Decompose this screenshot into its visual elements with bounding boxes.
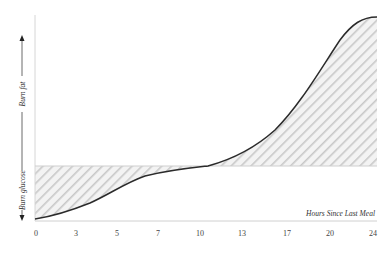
label-burn-glucose: Burn glucose (18, 169, 27, 209)
x-tick-labels: 0 3 5 7 10 13 17 20 24 (34, 229, 377, 238)
x-tick: 0 (34, 229, 38, 238)
fasting-fuel-chart: Burn fat Burn glucose Hours Since Last M… (0, 0, 391, 259)
x-tick: 20 (326, 229, 334, 238)
fat-region (208, 17, 377, 166)
down-arrow-icon (20, 215, 25, 221)
up-arrow-icon (20, 35, 25, 41)
x-tick: 13 (238, 229, 246, 238)
x-tick: 5 (115, 229, 119, 238)
x-tick: 7 (156, 229, 160, 238)
glucose-region (35, 166, 208, 219)
x-tick: 24 (369, 229, 377, 238)
x-tick: 10 (196, 229, 204, 238)
x-axis-title: Hours Since Last Meal (305, 209, 375, 218)
x-tick: 17 (283, 229, 291, 238)
x-tick: 3 (74, 229, 78, 238)
label-burn-fat: Burn fat (18, 81, 27, 107)
